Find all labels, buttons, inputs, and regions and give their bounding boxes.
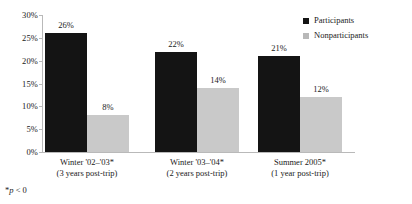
bar [45,33,87,152]
y-axis-tick-label: 0% [0,148,38,157]
chart-legend: Participants Nonparticipants [303,14,368,44]
legend-label-participants: Participants [314,16,354,25]
y-axis-tick-label: 15% [0,80,38,89]
category-label-sub: (1 year post-trip) [240,168,360,179]
footnote: *p < 0 [5,186,27,195]
x-axis-category-label: Summer 2005*(1 year post-trip) [240,157,360,179]
bar [197,88,239,152]
category-label-sub: (3 years post-trip) [27,168,147,179]
y-axis-tick-mark [39,106,42,107]
x-axis-category-label: Winter '03–'04*(2 years post-trip) [137,157,257,179]
y-axis-tick-label: 30% [0,11,38,20]
y-axis-tick-label: 20% [0,57,38,66]
bar [258,56,300,152]
legend-label-nonparticipants: Nonparticipants [314,31,368,40]
bar [87,115,129,152]
category-label-sub: (2 years post-trip) [137,168,257,179]
category-label-main: Summer 2005* [274,157,326,167]
bar-value-label: 14% [197,76,239,85]
y-axis-tick-mark [39,15,42,16]
y-axis-tick-mark [39,61,42,62]
y-axis-line [42,15,43,152]
legend-swatch-icon-participants [303,18,309,24]
legend-swatch-icon-nonparticipants [303,33,309,39]
bar-value-label: 22% [155,40,197,49]
x-axis-line [42,152,355,153]
footnote-comparison: < 0 [14,185,27,195]
bar-value-label: 26% [45,21,87,30]
y-axis-tick-label: 5% [0,125,38,134]
x-axis-category-label: Winter '02–'03*(3 years post-trip) [27,157,147,179]
y-axis-tick-mark [39,38,42,39]
y-axis-tick-mark [39,84,42,85]
bar-chart: 0%5%10%15%20%25%30% 26%8%22%14%21%12% Wi… [0,0,412,204]
bar-value-label: 8% [87,103,129,112]
legend-item-nonparticipants: Nonparticipants [303,29,368,42]
y-axis-tick-mark [39,129,42,130]
bar [300,97,342,152]
y-axis-tick-label: 25% [0,34,38,43]
bar [155,52,197,152]
y-axis-tick-mark [39,152,42,153]
bar-value-label: 12% [300,85,342,94]
bar-value-label: 21% [258,44,300,53]
category-label-main: Winter '03–'04* [170,157,224,167]
category-label-main: Winter '02–'03* [60,157,114,167]
legend-item-participants: Participants [303,14,368,27]
y-axis-tick-label: 10% [0,102,38,111]
